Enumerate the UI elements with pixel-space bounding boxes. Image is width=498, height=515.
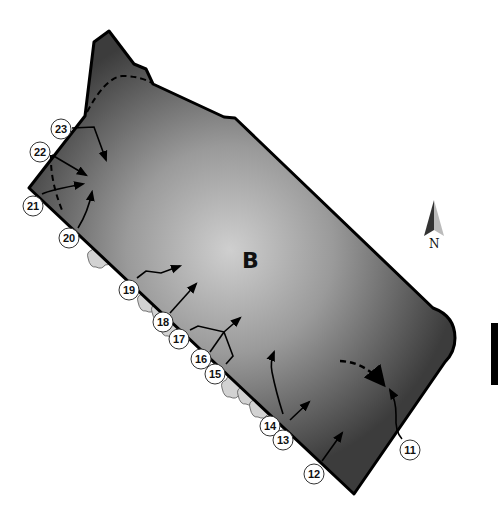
marker-16: 16	[191, 349, 211, 369]
svg-text:14: 14	[264, 420, 277, 432]
svg-text:19: 19	[123, 284, 135, 296]
svg-text:22: 22	[34, 146, 46, 158]
svg-text:18: 18	[157, 316, 169, 328]
marker-21: 21	[23, 196, 43, 216]
north-arrow: N	[424, 200, 444, 251]
marker-18: 18	[153, 312, 173, 332]
north-label: N	[429, 237, 440, 251]
marker-12: 12	[304, 464, 324, 484]
svg-text:13: 13	[277, 434, 289, 446]
svg-text:21: 21	[27, 200, 39, 212]
marker-15: 15	[205, 364, 225, 384]
zone-label: B	[242, 248, 259, 273]
north-arrow-icon	[424, 200, 434, 236]
edge-bar	[491, 323, 498, 385]
marker-11: 11	[400, 440, 420, 460]
marker-17: 17	[169, 329, 189, 349]
svg-text:17: 17	[173, 333, 185, 345]
svg-text:16: 16	[195, 353, 207, 365]
marker-20: 20	[59, 228, 79, 248]
svg-text:11: 11	[404, 444, 416, 456]
svg-text:15: 15	[209, 368, 221, 380]
marker-13: 13	[273, 430, 293, 450]
site-diagram: B N 23 22 21 20 19 18 17 16 15 14 13 12 …	[0, 0, 498, 515]
svg-text:20: 20	[63, 232, 75, 244]
svg-text:23: 23	[55, 123, 67, 135]
svg-text:12: 12	[308, 468, 320, 480]
marker-19: 19	[119, 280, 139, 300]
marker-22: 22	[30, 142, 50, 162]
marker-23: 23	[51, 119, 71, 139]
